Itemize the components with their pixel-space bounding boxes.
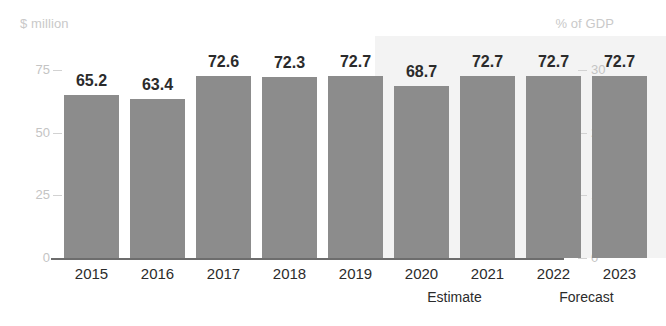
x-axis-tick-2017: 2017 [189, 266, 259, 281]
x-axis-tick-2015: 2015 [57, 266, 127, 281]
bar-2021[interactable] [460, 76, 515, 258]
y-axis-left-tick-50: 50 [36, 126, 62, 139]
x-axis-tick-2016: 2016 [123, 266, 193, 281]
bar-value-label-2019: 72.7 [321, 54, 391, 70]
y-axis-left-tick-label: 50 [36, 125, 50, 140]
bar-2017[interactable] [196, 76, 251, 258]
y-axis-left-tick-25: 25 [36, 188, 62, 201]
x-axis-tick-2021: 2021 [453, 266, 523, 281]
bar-value-label-2017: 72.6 [189, 54, 259, 70]
y-axis-left-tick-label: 75 [36, 62, 50, 77]
bar-value-label-2018: 72.3 [255, 55, 325, 71]
bar-2022[interactable] [526, 76, 581, 258]
bar-value-label-2023: 72.7 [585, 54, 655, 70]
tick-dash-icon [578, 70, 587, 71]
bar-2023[interactable] [592, 76, 647, 258]
bar-value-label-2021: 72.7 [453, 54, 523, 70]
group-caption-forecast: Forecast [526, 290, 647, 304]
tick-dash-icon [578, 258, 587, 259]
x-axis-tick-2023: 2023 [585, 266, 655, 281]
bar-2019[interactable] [328, 76, 383, 258]
bar-2018[interactable] [262, 77, 317, 258]
x-axis-line [51, 258, 564, 260]
y-axis-left-tick-label: 0 [43, 250, 50, 265]
y-axis-left-tick-label: 25 [36, 187, 50, 202]
bar-value-label-2020: 68.7 [387, 64, 457, 80]
y-axis-right-unit-label: % of GDP [555, 16, 614, 31]
bar-value-label-2015: 65.2 [57, 73, 127, 89]
tick-dash-icon [53, 195, 62, 196]
y-axis-left-unit-label: $ million [20, 16, 69, 31]
group-caption-estimate: Estimate [394, 290, 515, 304]
tick-dash-icon [53, 133, 62, 134]
bar-2016[interactable] [130, 99, 185, 258]
x-axis-tick-2018: 2018 [255, 266, 325, 281]
tick-dash-icon [53, 70, 62, 71]
x-axis-tick-2019: 2019 [321, 266, 391, 281]
x-axis-tick-2020: 2020 [387, 266, 457, 281]
bar-value-label-2016: 63.4 [123, 77, 193, 93]
bar-2015[interactable] [64, 95, 119, 258]
bar-2020[interactable] [394, 86, 449, 258]
bar-value-label-2022: 72.7 [519, 54, 589, 70]
x-axis-tick-2022: 2022 [519, 266, 589, 281]
